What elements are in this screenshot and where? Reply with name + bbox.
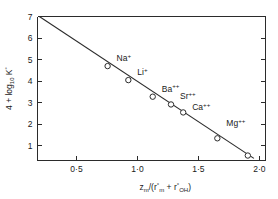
x-axis-title-text: zm/(r°m + r°OH) — [140, 182, 192, 194]
y-tick-label: 4 — [28, 76, 33, 86]
x-axis-ticks: 0·51·01·52·0 — [70, 156, 265, 174]
y-tick-label: 2 — [28, 119, 33, 129]
data-point — [245, 153, 250, 158]
y-axis-title-text: 4 + log10 K° — [4, 66, 16, 109]
data-point-marker — [245, 153, 250, 158]
charge-superscript: + — [127, 52, 131, 59]
data-point-label: Na+ — [117, 52, 132, 63]
data-point-label: Sr++ — [180, 90, 196, 101]
y-tick-label: 1 — [28, 141, 33, 151]
x-axis-title: zm/(r°m + r°OH) — [140, 182, 192, 194]
hydrolysis-constant-scatter-chart: 0·51·01·52·0 1234567 Na+Li+Ba++Sr++Ca++M… — [0, 0, 278, 199]
charge-superscript: ++ — [189, 90, 197, 97]
data-point-marker — [126, 77, 131, 82]
charge-superscript: + — [144, 66, 148, 73]
y-tick-label: 3 — [28, 98, 33, 108]
x-tick-label: 1·0 — [131, 164, 144, 174]
charge-superscript: ++ — [238, 117, 246, 124]
x-tick-label: 2·0 — [253, 164, 266, 174]
data-point: Mg++ — [215, 117, 246, 141]
data-point: Li+ — [126, 66, 148, 83]
y-tick-label: 7 — [28, 12, 33, 22]
data-point-label: Ca++ — [192, 101, 210, 112]
data-point-marker — [150, 94, 155, 99]
y-axis-title: 4 + log10 K° — [4, 66, 16, 109]
y-tick-label: 6 — [28, 33, 33, 43]
chart-canvas: 0·51·01·52·0 1234567 Na+Li+Ba++Sr++Ca++M… — [0, 0, 278, 199]
charge-superscript: ++ — [203, 101, 211, 108]
data-point-marker — [168, 102, 173, 107]
data-point-marker — [181, 110, 186, 115]
fit-line-segment — [39, 17, 254, 159]
x-tick-label: 0·5 — [70, 164, 83, 174]
y-tick-label: 5 — [28, 55, 33, 65]
data-point-label: Li+ — [137, 66, 148, 77]
data-point: Ba++ — [150, 82, 180, 99]
data-point-label: Mg++ — [226, 117, 245, 128]
data-point-label: Ba++ — [162, 82, 180, 93]
data-point-marker — [105, 63, 110, 68]
data-point: Na+ — [105, 52, 132, 69]
x-tick-label: 1·5 — [192, 164, 205, 174]
regression-line — [39, 17, 254, 159]
data-point: Ca++ — [181, 101, 211, 115]
data-point-marker — [215, 136, 220, 141]
charge-superscript: ++ — [172, 82, 180, 89]
